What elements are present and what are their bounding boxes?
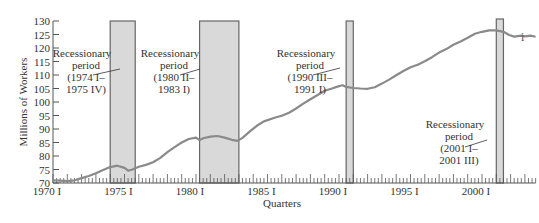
- y-tick-label: 75: [39, 164, 51, 176]
- y-tick-label: 125: [34, 29, 51, 41]
- x-tick-label: 1995 I: [390, 185, 419, 197]
- y-tick-label: 110: [34, 69, 51, 81]
- y-tick-label: 80: [39, 150, 51, 162]
- svg-text:1991 I): 1991 I): [294, 83, 326, 96]
- y-tick-label: 85: [39, 137, 51, 149]
- y-tick-label: 130: [34, 15, 51, 27]
- recession-label: Recessionaryperiod(2001 I–2001 III): [426, 118, 487, 167]
- svg-text:1983 I): 1983 I): [158, 83, 190, 96]
- recession-label: Recessionaryperiod(1980 II–1983 I): [141, 47, 200, 96]
- x-axis: 1970 I1975 I1980 I1985 I1990 I1995 I2000…: [33, 174, 536, 197]
- y-tick-label: 100: [34, 96, 51, 108]
- svg-text:Recessionary: Recessionary: [277, 47, 336, 59]
- svg-text:Recessionary: Recessionary: [426, 118, 485, 130]
- y-tick-label: 90: [39, 123, 51, 135]
- x-tick-label: 2000 I: [462, 185, 491, 197]
- x-tick-label: 1990 I: [319, 185, 348, 197]
- y-tick-label: 95: [39, 110, 51, 122]
- recession-band: [110, 21, 135, 183]
- svg-text:period: period: [160, 59, 189, 71]
- y-tick-label: 115: [34, 56, 51, 68]
- svg-text:2001 III): 2001 III): [439, 154, 479, 167]
- x-tick-label: 1980 I: [176, 185, 205, 197]
- side-margin-mark: i: [521, 30, 524, 45]
- x-tick-label: 1975 I: [104, 185, 133, 197]
- x-axis-title: Quarters: [263, 197, 301, 209]
- svg-text:1975 IV): 1975 IV): [66, 83, 106, 96]
- svg-text:period: period: [445, 130, 474, 142]
- svg-text:period: period: [296, 59, 325, 71]
- recession-band: [200, 21, 239, 183]
- svg-text:Recessionary: Recessionary: [53, 47, 112, 59]
- recession-band: [496, 19, 503, 183]
- y-tick-label: 105: [34, 83, 51, 95]
- y-tick-label: 120: [34, 42, 51, 54]
- x-tick-label: 1970 I: [33, 185, 62, 197]
- employment-chart: 707580859095100105110115120125130 1970 I…: [0, 0, 539, 223]
- y-axis-title: Millions of Workers: [17, 58, 29, 147]
- y-axis: 707580859095100105110115120125130: [34, 15, 60, 189]
- svg-text:Recessionary: Recessionary: [141, 47, 200, 59]
- svg-text:period: period: [72, 59, 101, 71]
- recession-band: [346, 21, 353, 183]
- x-tick-label: 1985 I: [247, 185, 276, 197]
